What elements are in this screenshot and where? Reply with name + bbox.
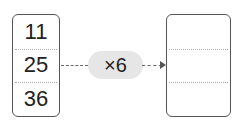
connector-line (61, 65, 88, 66)
input-box: 11 25 36 (12, 14, 60, 117)
output-box (166, 14, 231, 117)
output-value (167, 49, 230, 83)
operation-pill: ×6 (88, 51, 143, 79)
input-value: 25 (13, 49, 59, 83)
input-value: 11 (13, 15, 59, 49)
output-value (167, 82, 230, 116)
input-value: 36 (13, 82, 59, 116)
connector-line (142, 65, 162, 66)
output-value (167, 15, 230, 49)
